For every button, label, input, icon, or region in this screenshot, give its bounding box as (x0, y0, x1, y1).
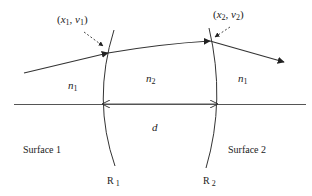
thickness-label: d (152, 121, 158, 133)
medium-left-index: n1 (68, 79, 78, 93)
point-1-label: (x1, v1) (57, 13, 88, 27)
point-2-label: (x2, v2) (213, 8, 244, 22)
medium-middle-index: n2 (146, 72, 156, 86)
exit-ray (210, 41, 284, 62)
point-1-pointer (84, 32, 103, 46)
incident-ray (24, 53, 108, 73)
point-2-pointer (215, 27, 230, 37)
internal-ray (108, 41, 210, 53)
lens-diagram: (x1, v1) (x2, v2) n1 n2 n1 d Surface 1 S… (0, 0, 312, 196)
surface-1-curve (103, 30, 115, 166)
radius-2-label: R2 (203, 175, 216, 188)
surface-2-curve (206, 28, 217, 168)
surface-1-label: Surface 1 (23, 144, 61, 155)
radius-1-label: R1 (107, 175, 120, 188)
surface-2-label: Surface 2 (228, 144, 266, 155)
medium-right-index: n1 (238, 72, 248, 86)
